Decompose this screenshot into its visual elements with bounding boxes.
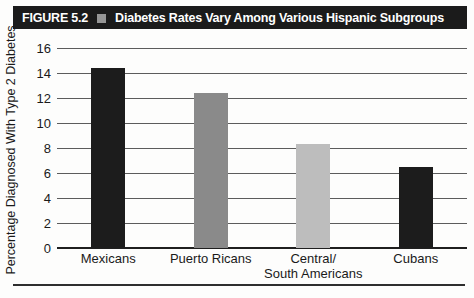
- bar-puerto-ricans: [194, 93, 228, 248]
- bar-central: [296, 144, 330, 248]
- plot-area: 0246810121416MexicansPuerto RicansCentra…: [57, 48, 467, 248]
- y-tick-label: 12: [21, 92, 51, 105]
- y-tick-label: 2: [21, 217, 51, 230]
- figure-header: FIGURE 5.2 Diabetes Rates Vary Among Var…: [13, 6, 467, 29]
- gridline-y16: [57, 48, 467, 49]
- x-tick-label: Cubans: [351, 252, 474, 267]
- y-tick-label: 10: [21, 117, 51, 130]
- y-tick-label: 8: [21, 142, 51, 155]
- figure-panel: FIGURE 5.2 Diabetes Rates Vary Among Var…: [0, 0, 474, 298]
- figure-number: FIGURE 5.2: [22, 11, 88, 25]
- bar-mexicans: [91, 68, 125, 248]
- y-tick-label: 14: [21, 67, 51, 80]
- figure-title: Diabetes Rates Vary Among Various Hispan…: [115, 11, 444, 25]
- y-tick-label: 6: [21, 167, 51, 180]
- bar-cubans: [399, 167, 433, 248]
- y-axis-label: Percentage Diagnosed With Type 2 Diabete…: [4, 25, 18, 274]
- y-tick-label: 16: [21, 42, 51, 55]
- bottom-rule: [13, 284, 465, 286]
- square-bullet-icon: [97, 14, 106, 23]
- y-tick-label: 4: [21, 192, 51, 205]
